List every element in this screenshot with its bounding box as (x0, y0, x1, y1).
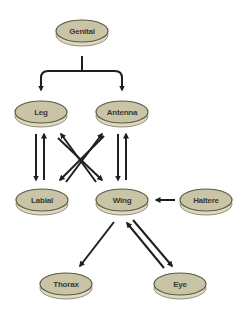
arrow-wing-to-thorax (80, 222, 114, 266)
node-label-genital: Genital (69, 27, 95, 36)
arrow-wing-to-eye (133, 220, 172, 266)
node-thorax: Thorax (40, 273, 92, 299)
arrow-eye-to-wing (127, 223, 164, 268)
node-leg: Leg (15, 101, 67, 127)
node-wing: Wing (96, 189, 148, 215)
node-label-thorax: Thorax (53, 280, 79, 289)
node-label-wing: Wing (113, 196, 132, 205)
arrow-genital-to-leg (41, 71, 82, 90)
node-label-antenna: Antenna (107, 108, 138, 117)
node-label-labial: Labial (31, 196, 53, 205)
node-eye: Eye (154, 273, 206, 299)
node-genital: Genital (56, 20, 108, 46)
node-label-eye: Eye (173, 280, 187, 289)
node-label-haltere: Haltere (193, 196, 219, 205)
node-haltere: Haltere (180, 189, 232, 215)
genital-branch-connector (41, 56, 122, 90)
node-label-leg: Leg (34, 108, 48, 117)
regulatory-diagram: Genital Leg Antenna Labial Wing Haltere … (0, 0, 244, 322)
arrow-genital-to-antenna (82, 71, 122, 90)
node-labial: Labial (16, 189, 68, 215)
node-antenna: Antenna (96, 101, 148, 127)
